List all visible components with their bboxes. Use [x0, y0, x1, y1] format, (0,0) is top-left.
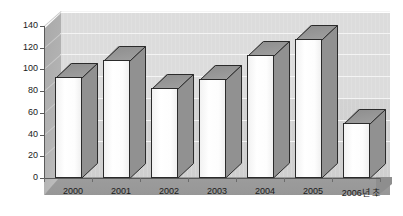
y-axis-tick-label-wrap: 40 [0, 130, 38, 139]
x-axis-tick [92, 178, 93, 182]
bar-front-face [343, 123, 370, 178]
bar-2006년 초 [343, 109, 370, 178]
x-axis-tick-label: 2004 [255, 186, 275, 196]
x-axis-line [44, 178, 380, 179]
y-axis-tick-label-wrap: 120 [0, 43, 38, 52]
y-axis-tick-label: 140 [0, 21, 38, 30]
bar-front-face [55, 77, 82, 178]
y-axis-tick-label: 100 [0, 64, 38, 73]
y-axis-tick-label: 120 [0, 43, 38, 52]
gridline [60, 33, 390, 34]
y-axis-tick-label-wrap: 100 [0, 64, 38, 73]
bar-2004 [247, 41, 274, 178]
x-axis-tick [332, 178, 333, 182]
y-axis-tick-label-wrap: 60 [0, 108, 38, 117]
bar-2003 [199, 65, 226, 178]
x-axis-tick [380, 178, 381, 182]
bar-front-face [199, 79, 226, 178]
bar-side-face [129, 46, 147, 180]
bar-side-face [225, 65, 243, 180]
y-axis-tick-label: 20 [0, 151, 38, 160]
x-axis-tick-label: 2003 [207, 186, 227, 196]
bar-2005 [295, 25, 322, 178]
y-axis-tick-label: 60 [0, 108, 38, 117]
bar-front-face [295, 39, 322, 178]
y-axis-line [44, 26, 45, 181]
x-axis-tick-label: 2006년 초 [342, 186, 381, 199]
bar-side-face [81, 63, 99, 180]
x-axis-tick [236, 178, 237, 182]
x-axis-tick-label: 2002 [159, 186, 179, 196]
bar-2001 [103, 46, 130, 178]
bar-side-face [321, 25, 339, 180]
y-axis-tick-label-wrap: 20 [0, 151, 38, 160]
bar-2000 [55, 63, 82, 178]
bar-side-face [177, 74, 195, 180]
bar-2002 [151, 74, 178, 178]
y-axis-tick-label-wrap: 140 [0, 21, 38, 30]
bar-front-face [151, 88, 178, 178]
x-axis-tick [188, 178, 189, 182]
bar-side-face [273, 41, 291, 180]
bar-front-face [247, 55, 274, 178]
y-axis-tick-label-wrap: 80 [0, 86, 38, 95]
x-axis-tick-label: 2000 [63, 186, 83, 196]
y-axis-tick-label: 40 [0, 130, 38, 139]
gridline [60, 11, 390, 12]
x-axis-tick [284, 178, 285, 182]
x-axis-tick [140, 178, 141, 182]
x-axis-tick-label: 2005 [303, 186, 323, 196]
bar-side-face [369, 109, 387, 180]
bar-front-face [103, 60, 130, 178]
x-axis-tick [44, 178, 45, 182]
x-axis-tick-label: 2001 [111, 186, 131, 196]
y-axis-tick-label: 0 [0, 173, 38, 182]
bar-chart: 020406080100120140 200020012002200320042… [0, 0, 403, 216]
y-axis-tick-label-wrap: 0 [0, 173, 38, 182]
y-axis-tick-label: 80 [0, 86, 38, 95]
